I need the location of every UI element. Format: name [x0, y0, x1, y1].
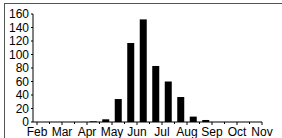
x-tick-label: Jul [154, 125, 169, 138]
y-tick-label: 80 [16, 61, 30, 75]
y-tick-label: 160 [9, 7, 29, 21]
bar [202, 120, 209, 122]
x-tick-label: Oct [228, 125, 247, 138]
y-tick-label: 140 [9, 21, 29, 35]
bar [140, 19, 147, 122]
y-tick-label: 20 [16, 102, 30, 116]
x-tick-label: Sep [201, 125, 223, 138]
bar [127, 43, 134, 122]
x-tick-label: Aug [176, 125, 197, 138]
bar [102, 119, 109, 122]
y-tick-label: 120 [9, 34, 29, 48]
bar [90, 121, 97, 122]
y-tick-label: 100 [9, 48, 29, 62]
x-tick-label: Mar [52, 125, 73, 138]
bar [177, 97, 184, 122]
y-tick-label: 40 [16, 88, 30, 102]
x-tick-label: May [101, 125, 124, 138]
y-axis: 020406080100120140160 [9, 7, 33, 129]
bar [152, 66, 159, 122]
x-tick-label: Feb [27, 125, 48, 138]
bar [190, 117, 197, 122]
x-tick-label: Nov [251, 125, 272, 138]
bar-chart: 020406080100120140160 FebMarAprMayJunJul… [0, 0, 282, 138]
y-tick-label: 60 [16, 75, 30, 89]
bar [115, 99, 122, 122]
x-tick-label: Apr [78, 125, 97, 138]
x-tick-label: Jun [127, 125, 146, 138]
bar [165, 82, 172, 123]
x-axis: FebMarAprMayJunJulAugSepOctNov [27, 122, 273, 138]
bars [90, 19, 210, 122]
